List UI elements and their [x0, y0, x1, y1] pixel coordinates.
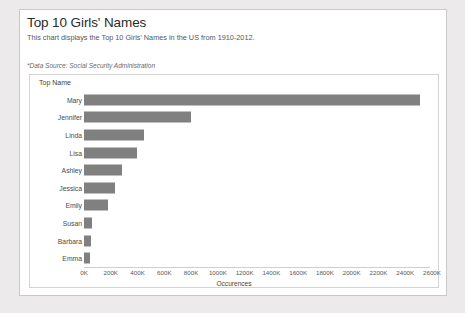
bar-row: Lisa	[30, 144, 438, 162]
bar-row: Jessica	[30, 179, 438, 197]
x-axis-tick-label: 1400K	[262, 269, 280, 276]
bar	[84, 182, 115, 193]
x-axis-tick-label: 1000K	[209, 269, 227, 276]
x-axis-tick-label: 2600K	[423, 269, 441, 276]
bar	[84, 129, 144, 140]
report-panel: Top 10 Girls' Names This chart displays …	[19, 9, 447, 296]
bar-row: Susan	[30, 214, 438, 232]
chart-plot-area: Top Name MaryJenniferLindaLisaAshleyJess…	[29, 74, 439, 288]
bar-row: Emily	[30, 197, 438, 215]
bar-category-label: Emma	[62, 255, 82, 262]
x-axis-tick-label: 200K	[104, 269, 118, 276]
bar	[84, 165, 122, 176]
x-axis-tick-label: 1200K	[236, 269, 254, 276]
bar-category-label: Emily	[65, 202, 82, 209]
bar	[84, 94, 420, 105]
x-axis-tick-label: 1800K	[316, 269, 334, 276]
x-axis-tick-label: 2200K	[370, 269, 388, 276]
bar-row: Mary	[30, 91, 438, 109]
data-source-note: *Data Source: Social Security Administra…	[27, 62, 155, 69]
bar-row: Emma	[30, 249, 438, 267]
x-axis-title: Occurences	[30, 280, 438, 287]
x-axis-tick-label: 800K	[184, 269, 198, 276]
bar-category-label: Mary	[67, 96, 82, 103]
x-axis-line	[84, 267, 430, 268]
bar-category-label: Jennifer	[58, 114, 82, 121]
bar-row: Ashley	[30, 161, 438, 179]
bar	[84, 235, 91, 246]
x-axis-tick-label: 1600K	[289, 269, 307, 276]
bar-row: Linda	[30, 126, 438, 144]
x-axis-tick-label: 600K	[157, 269, 171, 276]
x-axis-tick-label: 400K	[130, 269, 144, 276]
bar-category-label: Jessica	[59, 184, 82, 191]
bar	[84, 112, 191, 123]
bar-category-label: Barbara	[58, 237, 82, 244]
bar	[84, 253, 90, 264]
report-header: Top 10 Girls' Names This chart displays …	[27, 15, 440, 43]
bar-category-label: Lisa	[70, 149, 82, 156]
x-axis-tick-label: 0K	[80, 269, 88, 276]
bar-row: Jennifer	[30, 109, 438, 127]
bar-category-label: Susan	[63, 219, 82, 226]
chart-subtitle: This chart displays the Top 10 Girls' Na…	[27, 32, 440, 43]
x-axis-tick-label: 2400K	[396, 269, 414, 276]
bar	[84, 200, 108, 211]
bar	[84, 147, 137, 158]
x-axis-tick-label: 2000K	[343, 269, 361, 276]
bar	[84, 217, 92, 228]
bar-row: Barbara	[30, 232, 438, 250]
bar-series: MaryJenniferLindaLisaAshleyJessicaEmilyS…	[30, 91, 438, 267]
page-title: Top 10 Girls' Names	[27, 15, 440, 31]
y-axis-title: Top Name	[39, 79, 71, 86]
bar-category-label: Linda	[65, 131, 82, 138]
bar-category-label: Ashley	[62, 167, 82, 174]
